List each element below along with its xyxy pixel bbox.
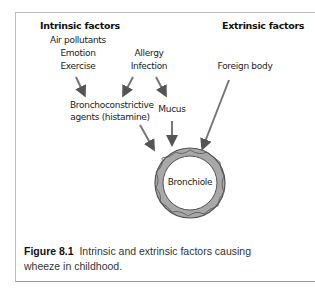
agents-label-line2: agents (histamine) <box>70 112 150 122</box>
factor-foreign-body: Foreign body <box>215 61 275 71</box>
figure-caption: Figure 8.1 Intrinsic and extrinsic facto… <box>24 244 284 274</box>
mucus-label: Mucus <box>155 104 189 114</box>
factor-emotion: Emotion <box>48 48 108 58</box>
arrow-infection-to-agents <box>124 77 133 94</box>
factor-air-pollutants: Air pollutants <box>48 35 108 45</box>
agents-label-line1: Bronchoconstrictive <box>70 100 150 110</box>
caption-label: Figure 8.1 <box>24 245 74 257</box>
extrinsic-heading: Extrinsic factors <box>222 20 304 31</box>
arrow-agents-to-bronchiole <box>140 125 153 148</box>
arrow-exercise-to-agents <box>76 77 84 94</box>
factor-exercise: Exercise <box>48 61 108 71</box>
bronchiole-label: Bronchiole <box>165 177 215 187</box>
factor-allergy: Allergy <box>124 48 174 58</box>
factor-infection: Infection <box>124 61 174 71</box>
arrow-foreign-body-to-bronchiole <box>203 80 229 147</box>
intrinsic-heading: Intrinsic factors <box>40 20 120 31</box>
arrow-infection-to-mucus <box>156 77 165 94</box>
